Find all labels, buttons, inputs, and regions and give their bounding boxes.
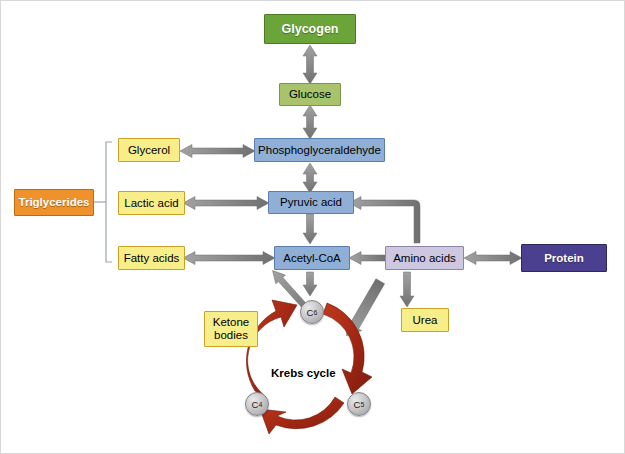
node-triglycerides[interactable]: Triglycerides: [14, 189, 94, 216]
node-lactic-acid[interactable]: Lactic acid: [118, 191, 185, 215]
arrow-pyruvic-acetylcoa: [303, 214, 317, 244]
node-acetyl-coa[interactable]: Acetyl-CoA: [274, 246, 350, 270]
node-glycogen-label: Glycogen: [282, 22, 339, 36]
node-glycerol[interactable]: Glycerol: [118, 138, 180, 162]
arrow-pga-pyruvic: [303, 163, 317, 193]
node-glycerol-label: Glycerol: [128, 144, 170, 157]
node-ketone-bodies[interactable]: Ketone bodies: [204, 311, 258, 347]
krebs-carbon-c4-subscript: 4: [258, 401, 262, 408]
arrow-glycogen-glucose: [303, 45, 317, 84]
krebs-carbon-c6-subscript: 6: [313, 309, 317, 316]
arrow-lactic-pyruvic: [183, 197, 269, 210]
arrow-glycerol-pga: [180, 145, 255, 158]
node-pyruvic-acid[interactable]: Pyruvic acid: [268, 191, 354, 214]
node-urea[interactable]: Urea: [401, 308, 449, 332]
node-glucose[interactable]: Glucose: [279, 83, 341, 106]
triglycerides-bracket: [92, 142, 112, 262]
node-amino-acids[interactable]: Amino acids: [385, 246, 464, 270]
krebs-cycle-label-text: Krebs cycle: [271, 367, 336, 379]
krebs-carbon-c6-letter: C: [307, 307, 314, 318]
node-protein-label: Protein: [544, 252, 584, 265]
node-fatty-acids[interactable]: Fatty acids: [118, 246, 185, 270]
krebs-carbon-c5: C5: [347, 392, 371, 416]
node-protein[interactable]: Protein: [521, 244, 607, 272]
krebs-carbon-c4: C4: [245, 392, 269, 416]
node-ketone-bodies-line2: bodies: [214, 329, 248, 342]
node-glycogen[interactable]: Glycogen: [264, 14, 356, 44]
node-pyruvic-acid-label: Pyruvic acid: [280, 196, 342, 209]
node-urea-label: Urea: [413, 314, 438, 327]
krebs-carbon-c6: C6: [300, 300, 324, 324]
node-amino-acids-label: Amino acids: [393, 252, 456, 265]
krebs-cycle-label: Krebs cycle: [271, 367, 336, 379]
node-ketone-bodies-line1: Ketone: [213, 316, 249, 329]
node-triglycerides-label: Triglycerides: [19, 196, 90, 209]
krebs-carbon-c4-letter: C: [252, 399, 259, 410]
arrow-aminoacids-acetylcoa: [349, 252, 386, 265]
node-glucose-label: Glucose: [289, 88, 331, 101]
node-phosphoglyceraldehyde-label: Phosphoglyceraldehyde: [258, 144, 381, 157]
node-phosphoglyceraldehyde[interactable]: Phosphoglyceraldehyde: [254, 138, 385, 162]
node-lactic-acid-label: Lactic acid: [124, 197, 178, 210]
krebs-carbon-c5-subscript: 5: [360, 401, 364, 408]
metabolic-pathway-diagram: Glycogen Glucose Phosphoglyceraldehyde P…: [0, 0, 625, 454]
arrow-aminoacids-pyruvic: [349, 197, 420, 244]
arrow-acetylcoa-krebs: [303, 272, 317, 296]
node-acetyl-coa-label: Acetyl-CoA: [283, 252, 341, 265]
arrow-aminoacids-urea: [400, 272, 414, 307]
connector-layer: [0, 0, 625, 454]
node-fatty-acids-label: Fatty acids: [124, 252, 180, 265]
arrow-glucose-pga: [303, 105, 317, 139]
krebs-carbon-c5-letter: C: [354, 399, 361, 410]
arrow-aminoacids-protein: [464, 252, 522, 265]
arrow-fattyacids-acetylcoa: [183, 252, 275, 265]
